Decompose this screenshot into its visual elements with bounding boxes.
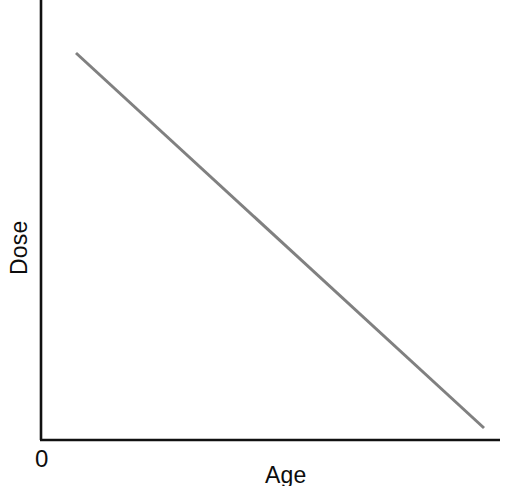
plot-area [0,0,523,486]
chart-figure: Dose Age 0 [0,0,523,486]
origin-tick-label: 0 [35,447,49,471]
x-axis-label: Age [265,464,307,486]
y-axis-label: Dose [8,221,31,276]
data-line-dose-vs-age [76,53,484,428]
